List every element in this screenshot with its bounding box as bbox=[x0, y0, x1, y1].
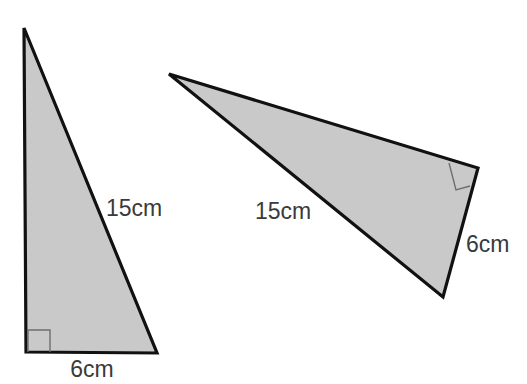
right-triangle-short-leg-label: 6cm bbox=[466, 231, 509, 257]
left-triangle: 15cm 6cm bbox=[24, 28, 162, 382]
right-triangle-long-leg-label: 15cm bbox=[255, 198, 311, 224]
left-triangle-base-label: 6cm bbox=[70, 356, 113, 382]
left-triangle-shape bbox=[24, 28, 157, 353]
right-triangle-shape bbox=[169, 74, 478, 297]
figure-canvas: 15cm 6cm 15cm 6cm bbox=[0, 0, 527, 384]
left-triangle-hypotenuse-label: 15cm bbox=[106, 195, 162, 221]
geometry-figure: 15cm 6cm 15cm 6cm bbox=[0, 0, 527, 384]
right-triangle: 15cm 6cm bbox=[169, 74, 509, 297]
